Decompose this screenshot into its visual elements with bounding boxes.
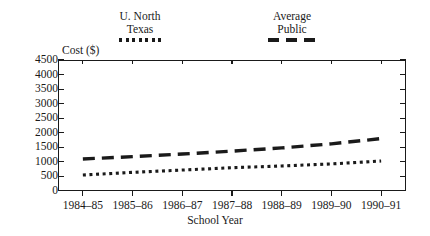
legend-label-line-2: Texas — [88, 23, 192, 36]
x-tick-mark — [132, 191, 133, 196]
y-tick-mark-right — [400, 89, 406, 90]
y-tick-label: 3500 — [35, 82, 58, 95]
x-tick-mark — [182, 191, 183, 196]
legend-label-line-2: Public — [240, 23, 344, 36]
legend-label-line-1: U. North — [88, 10, 192, 23]
y-tick-mark — [58, 74, 64, 75]
y-tick-mark-right — [400, 147, 406, 148]
y-tick-label: 4000 — [35, 68, 58, 81]
x-tick-mark — [231, 191, 232, 196]
y-tick-mark-right — [400, 161, 406, 162]
dashed-line-swatch-icon — [268, 38, 316, 42]
y-tick-mark-right — [400, 176, 406, 177]
legend-label-line-1: Average — [240, 10, 344, 23]
y-tick-mark-right — [400, 59, 406, 60]
x-tick-mark — [331, 191, 332, 196]
legend-entry-u-north-texas: U. North Texas — [88, 10, 192, 42]
x-tick-mark-top — [331, 60, 332, 64]
y-tick-mark — [58, 59, 64, 60]
y-tick-mark — [58, 103, 64, 104]
y-tick-mark-right — [400, 74, 406, 75]
y-tick-label: 500 — [41, 169, 58, 182]
dotted-line-swatch-icon — [119, 38, 161, 42]
y-tick-label: 4500 — [35, 53, 58, 66]
y-tick-label: 0 — [52, 184, 58, 197]
y-tick-mark — [58, 118, 64, 119]
y-axis-title: Cost ($) — [62, 44, 99, 56]
y-tick-mark — [58, 161, 64, 162]
x-tick-mark-top — [182, 60, 183, 64]
x-tick-label: 1990–91 — [347, 199, 415, 211]
x-tick-mark-top — [82, 60, 83, 64]
y-tick-mark-right — [400, 118, 406, 119]
y-tick-mark — [58, 89, 64, 90]
x-tick-mark — [381, 191, 382, 196]
y-tick-mark — [58, 147, 64, 148]
y-tick-label: 2500 — [35, 111, 58, 124]
x-tick-mark-top — [132, 60, 133, 64]
y-tick-label: 2000 — [35, 126, 58, 139]
x-tick-mark — [82, 191, 83, 196]
x-tick-mark — [281, 191, 282, 196]
y-tick-label: 3000 — [35, 97, 58, 110]
y-tick-label: 1500 — [35, 140, 58, 153]
x-tick-mark-top — [381, 60, 382, 64]
y-tick-mark — [58, 132, 64, 133]
y-tick-mark — [58, 176, 64, 177]
y-tick-mark-right — [400, 132, 406, 133]
plot-area — [58, 60, 406, 191]
y-tick-mark-right — [400, 103, 406, 104]
y-tick-label: 1000 — [35, 155, 58, 168]
x-tick-mark-top — [281, 60, 282, 64]
chart-legend: U. North Texas Average Public — [0, 4, 430, 48]
x-tick-mark-top — [231, 60, 232, 64]
cost-by-school-year-line-chart: U. North Texas Average Public Cost ($) 0… — [0, 0, 430, 236]
x-axis-title: School Year — [0, 214, 430, 226]
legend-entry-average-public: Average Public — [240, 10, 344, 42]
